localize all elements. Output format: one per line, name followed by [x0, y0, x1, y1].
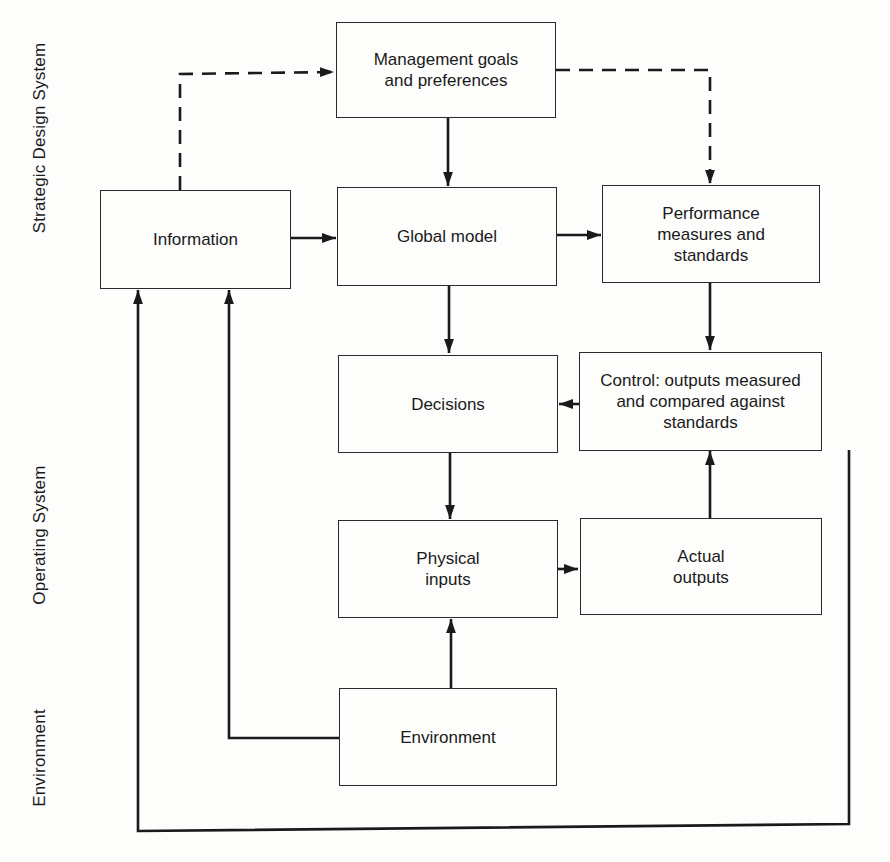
dashed-arrow-management-to-performance: [556, 70, 710, 184]
box-label: Information: [153, 229, 238, 250]
box-management-goals: Management goals and preferences: [336, 22, 556, 118]
box-actual-outputs: Actual outputs: [580, 518, 822, 615]
box-information: Information: [100, 190, 291, 289]
box-label: Performance measures and standards: [657, 203, 765, 266]
box-label: Physical inputs: [416, 548, 479, 590]
side-label-text: Environment: [30, 709, 49, 807]
side-label-operating-system: Operating System: [30, 465, 50, 604]
box-label: Management goals and preferences: [374, 49, 519, 91]
box-control: Control: outputs measured and compared a…: [579, 352, 822, 451]
box-decisions: Decisions: [338, 355, 558, 453]
side-label-text: Strategic Design System: [30, 43, 49, 234]
box-physical-inputs: Physical inputs: [338, 520, 558, 618]
box-environment: Environment: [339, 688, 557, 786]
box-label: Environment: [400, 727, 495, 748]
side-label-environment: Environment: [30, 709, 50, 807]
box-performance-measures: Performance measures and standards: [602, 185, 820, 283]
side-label-strategic-design-system: Strategic Design System: [30, 43, 50, 234]
box-label: Decisions: [411, 394, 485, 415]
box-global-model: Global model: [337, 187, 557, 286]
box-label: Global model: [397, 226, 497, 247]
side-label-text: Operating System: [30, 465, 49, 604]
box-label: Control: outputs measured and compared a…: [600, 370, 800, 433]
box-label: Actual outputs: [673, 546, 729, 588]
dashed-arrow-information-to-management: [180, 72, 334, 190]
arrow-environment-to-information: [229, 290, 339, 738]
